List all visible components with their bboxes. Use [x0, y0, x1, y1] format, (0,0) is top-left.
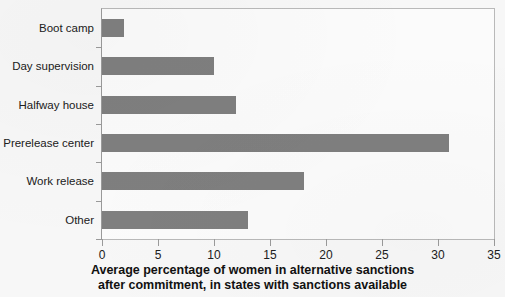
bar — [102, 211, 248, 229]
bar — [102, 57, 214, 75]
y-axis-tick-label: Other — [65, 214, 94, 226]
bar — [102, 96, 236, 114]
bar-row: Other — [102, 201, 494, 239]
x-axis-tick-label: 10 — [207, 248, 220, 262]
x-axis-tick-mark — [102, 239, 103, 246]
x-axis-tick-mark — [158, 239, 159, 246]
bar-row: Prerelease center — [102, 124, 494, 162]
x-axis-tick-mark — [438, 239, 439, 246]
x-axis-tick-label: 35 — [487, 248, 500, 262]
x-axis-tick-mark — [270, 239, 271, 246]
x-axis-title-line-2: after commitment, in states with sanctio… — [0, 278, 505, 293]
bar-row: Work release — [102, 162, 494, 200]
x-axis-tick-label: 25 — [375, 248, 388, 262]
plot-area: Boot campDay supervisionHalfway housePre… — [101, 8, 495, 240]
y-axis-tick-label: Day supervision — [12, 60, 94, 72]
x-axis-title-line-1: Average percentage of women in alternati… — [0, 263, 505, 278]
x-axis-tick-label: 15 — [263, 248, 276, 262]
chart-screenshot: Boot campDay supervisionHalfway housePre… — [0, 0, 505, 297]
x-axis-title: Average percentage of women in alternati… — [0, 263, 505, 293]
x-axis-tick-mark — [382, 239, 383, 246]
x-axis-tick-mark — [494, 239, 495, 246]
y-axis-tick-label: Halfway house — [19, 99, 94, 111]
bar — [102, 19, 124, 37]
x-axis-tick-label: 0 — [99, 248, 106, 262]
y-axis-tick-label: Boot camp — [39, 22, 94, 34]
bar-row: Boot camp — [102, 9, 494, 47]
x-axis-tick-label: 30 — [431, 248, 444, 262]
x-axis-tick-label: 5 — [155, 248, 162, 262]
x-axis-tick-label: 20 — [319, 248, 332, 262]
y-axis-tick-label: Work release — [26, 175, 94, 187]
bar-row: Day supervision — [102, 47, 494, 85]
bar — [102, 134, 449, 152]
bar — [102, 172, 304, 190]
x-axis-tick-mark — [214, 239, 215, 246]
x-axis-tick-mark — [326, 239, 327, 246]
bar-row: Halfway house — [102, 86, 494, 124]
y-axis-tick-label: Prerelease center — [3, 137, 94, 149]
